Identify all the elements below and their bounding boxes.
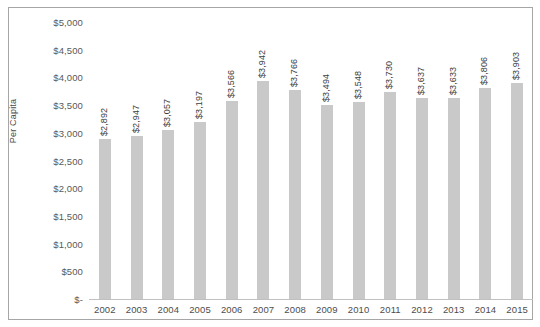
- x-axis-tick-label: 2011: [380, 304, 401, 315]
- bar-value-label: $3,903: [511, 52, 521, 80]
- bar-slot: $3,637: [406, 8, 438, 299]
- y-axis-tick-label: $2,500: [19, 155, 83, 166]
- y-axis-tick-label: $1,000: [19, 238, 83, 249]
- x-axis-tick-label: 2010: [348, 304, 370, 315]
- bar-2010[interactable]: [353, 102, 365, 299]
- bar-slot: $3,057: [152, 8, 184, 299]
- bar-2003[interactable]: [131, 136, 143, 299]
- bar-value-label: $3,766: [289, 59, 299, 87]
- bar-value-label: $2,947: [131, 105, 141, 133]
- x-axis-tick-label: 2002: [94, 304, 116, 315]
- bar-2005[interactable]: [194, 122, 206, 299]
- x-axis-tick-label: 2005: [189, 304, 211, 315]
- x-axis-tick-label: 2006: [221, 304, 243, 315]
- bar-slot: $3,197: [184, 8, 216, 299]
- bar-2008[interactable]: [289, 90, 301, 299]
- bar-value-label: $3,942: [257, 49, 267, 77]
- x-axis-tick-label: 2015: [506, 304, 528, 315]
- y-axis-tick-label: $3,500: [19, 100, 83, 111]
- bar-value-label: $3,730: [384, 61, 394, 89]
- x-axis-tick-label: 2007: [253, 304, 275, 315]
- bar-2015[interactable]: [511, 83, 523, 299]
- bar-slot: $3,766: [279, 8, 311, 299]
- y-axis-title: Per Capita: [8, 61, 18, 181]
- bar-slot: $3,633: [438, 8, 470, 299]
- bar-value-label: $3,633: [448, 67, 458, 95]
- x-axis-tick-label: 2012: [411, 304, 433, 315]
- bar-slot: $2,892: [89, 8, 121, 299]
- chart-frame: $5,000$4,500$4,000$3,500$3,000$2,500$2,0…: [8, 7, 533, 320]
- bar-2009[interactable]: [321, 105, 333, 299]
- bar-value-label: $3,566: [226, 70, 236, 98]
- bar-slot: $3,566: [216, 8, 248, 299]
- bar-value-label: $3,197: [194, 91, 204, 119]
- y-axis-tick-label: $2,000: [19, 183, 83, 194]
- bar-slot: $3,942: [248, 8, 280, 299]
- y-axis-tick-label: $4,000: [19, 72, 83, 83]
- y-axis-tick-label: $1,500: [19, 210, 83, 221]
- x-axis-tick-label: 2008: [284, 304, 306, 315]
- bar-slot: $3,903: [501, 8, 533, 299]
- x-axis-tick-label: 2004: [158, 304, 180, 315]
- bar-2006[interactable]: [226, 101, 238, 299]
- x-axis-tick-label: 2014: [475, 304, 497, 315]
- bar-2011[interactable]: [384, 92, 396, 299]
- bar-value-label: $3,637: [416, 66, 426, 94]
- y-axis-tick-label: $4,500: [19, 44, 83, 55]
- bar-2014[interactable]: [479, 88, 491, 299]
- bar-slot: $3,548: [343, 8, 375, 299]
- bar-value-label: $3,057: [162, 99, 172, 127]
- x-axis-tick-label: 2009: [316, 304, 338, 315]
- bar-2013[interactable]: [448, 98, 460, 299]
- y-axis-tick-label: $-: [19, 294, 83, 305]
- bar-slot: $3,494: [311, 8, 343, 299]
- bar-value-label: $3,494: [321, 74, 331, 102]
- bar-slot: $3,806: [470, 8, 502, 299]
- x-axis-line: [89, 299, 533, 300]
- bar-slot: $3,730: [374, 8, 406, 299]
- y-axis-tick-label: $5,000: [19, 17, 83, 28]
- y-axis: $5,000$4,500$4,000$3,500$3,000$2,500$2,0…: [9, 8, 89, 296]
- y-axis-tick-label: $500: [19, 266, 83, 277]
- bar-slot: $2,947: [121, 8, 153, 299]
- bar-value-label: $2,892: [99, 108, 109, 136]
- x-axis-tick-label: 2013: [443, 304, 465, 315]
- bar-2012[interactable]: [416, 98, 428, 299]
- bar-value-label: $3,806: [479, 57, 489, 85]
- x-axis-tick-label: 2003: [126, 304, 148, 315]
- bar-2007[interactable]: [257, 81, 269, 299]
- y-axis-tick-label: $3,000: [19, 127, 83, 138]
- bar-value-label: $3,548: [353, 71, 363, 99]
- bar-2002[interactable]: [99, 139, 111, 299]
- bar-2004[interactable]: [162, 130, 174, 299]
